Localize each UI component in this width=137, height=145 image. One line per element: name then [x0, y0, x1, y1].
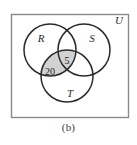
region-value-R-and-S-and-T: 5	[65, 55, 70, 66]
set-label-S: S	[89, 32, 95, 44]
set-label-T: T	[67, 87, 74, 99]
region-value-R-and-T: 20	[45, 66, 55, 77]
set-label-R: R	[37, 32, 45, 44]
universe-label: U	[115, 14, 124, 26]
venn-diagram-figure: R S T U 20 5 (b)	[0, 0, 137, 145]
figure-caption: (b)	[0, 121, 137, 133]
